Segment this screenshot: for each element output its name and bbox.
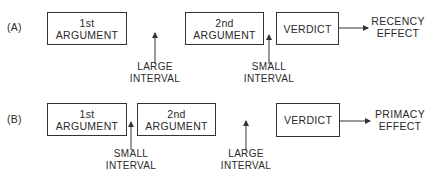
first-argument-line2: ARGUMENT xyxy=(56,29,118,41)
effect-line2: EFFECT xyxy=(375,120,425,132)
second-argument-line1: 2nd xyxy=(167,108,185,120)
interval-caption-b1: SMALL INTERVAL xyxy=(106,148,156,171)
row-label-b: (B) xyxy=(7,113,22,125)
caption-line1: LARGE xyxy=(221,148,271,160)
verdict-box-b: VERDICT xyxy=(276,103,340,137)
first-argument-line2: ARGUMENT xyxy=(56,120,118,132)
effect-label-b: PRIMACY EFFECT xyxy=(375,108,425,132)
caption-line2: INTERVAL xyxy=(130,73,180,85)
first-argument-box-b: 1st ARGUMENT xyxy=(47,103,127,136)
effect-label-a: RECENCY EFFECT xyxy=(371,15,424,39)
interval-caption-b2: LARGE INTERVAL xyxy=(221,148,271,171)
effect-line1: PRIMACY xyxy=(375,108,425,120)
second-argument-line1: 2nd xyxy=(215,17,233,29)
second-argument-line2: ARGUMENT xyxy=(193,29,255,41)
caption-line1: LARGE xyxy=(130,61,180,73)
first-argument-box-a: 1st ARGUMENT xyxy=(47,12,127,45)
first-argument-line1: 1st xyxy=(80,108,95,120)
caption-line1: SMALL xyxy=(244,61,294,73)
verdict-box-a: VERDICT xyxy=(276,12,339,45)
first-argument-line1: 1st xyxy=(80,17,95,29)
caption-line1: SMALL xyxy=(106,148,156,160)
interval-caption-a2: SMALL INTERVAL xyxy=(244,61,294,84)
effect-line1: RECENCY xyxy=(371,15,424,27)
verdict-label: VERDICT xyxy=(283,23,331,35)
effect-line2: EFFECT xyxy=(371,27,424,39)
second-argument-box-b: 2nd ARGUMENT xyxy=(137,103,216,136)
verdict-label: VERDICT xyxy=(284,114,332,126)
caption-line2: INTERVAL xyxy=(106,160,156,172)
second-argument-box-a: 2nd ARGUMENT xyxy=(185,12,264,45)
interval-caption-a1: LARGE INTERVAL xyxy=(130,61,180,84)
caption-line2: INTERVAL xyxy=(244,73,294,85)
row-label-a: (A) xyxy=(7,21,22,33)
caption-line2: INTERVAL xyxy=(221,160,271,172)
second-argument-line2: ARGUMENT xyxy=(145,120,207,132)
